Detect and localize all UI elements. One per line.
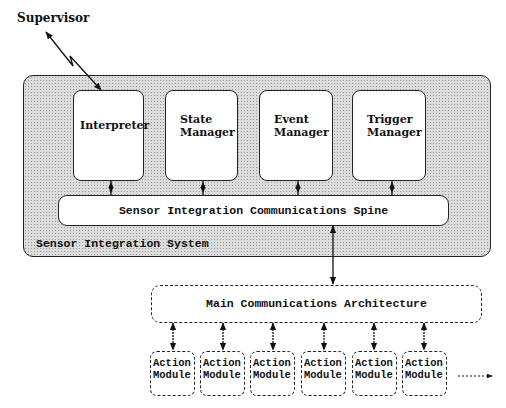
connectors-layer (0, 0, 506, 408)
component-spine-links (109, 180, 395, 195)
main-to-modules-arrows (173, 323, 424, 350)
supervisor-link-arrow (46, 32, 101, 90)
